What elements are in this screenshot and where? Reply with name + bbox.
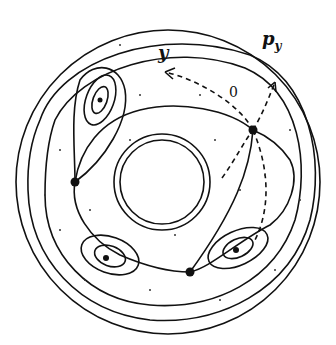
dashed-lower	[253, 130, 266, 240]
inner-hole-outer	[114, 134, 210, 230]
py-axis-dashed	[253, 82, 275, 130]
saddle-point-1	[249, 126, 258, 135]
saddle-point-3	[186, 268, 195, 277]
py-label: py	[262, 28, 282, 53]
separatrix	[74, 106, 294, 272]
y-label: y	[158, 42, 168, 63]
origin-label: 0	[229, 84, 238, 100]
outer-level-curve-2	[45, 57, 301, 305]
center-point-3	[233, 247, 239, 253]
py-label-sub: y	[275, 39, 282, 53]
island-lower-left-outer	[76, 228, 145, 282]
center-point-2	[103, 255, 109, 261]
center-point-1	[98, 98, 103, 103]
py-label-main: p	[262, 28, 275, 49]
dashed-radial	[222, 130, 253, 178]
saddle-point-2	[71, 178, 80, 187]
inner-hole-inner	[120, 140, 204, 224]
